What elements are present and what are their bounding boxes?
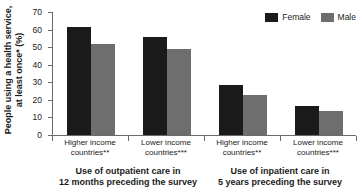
category-label-1: Higher incomecountries** — [52, 138, 128, 157]
bar-female-3 — [219, 85, 243, 135]
y-axis-tick: 60 — [48, 30, 52, 31]
category-label-4: Lower incomecountries*** — [280, 138, 356, 157]
y-axis-title-line-2: at least once* (%) — [13, 6, 24, 135]
bar-female-4 — [295, 106, 319, 135]
category-separator — [356, 136, 357, 141]
y-axis-tick: 50 — [48, 47, 52, 48]
category-label-line-2: countries** — [204, 148, 280, 158]
category-label-line-2: countries*** — [280, 148, 356, 158]
y-axis-tick-label: 70 — [33, 7, 42, 17]
group-title-1: Use of outpatient care in12 months prece… — [52, 166, 204, 188]
y-axis-tick-label: 20 — [33, 95, 42, 105]
group-title-line-2: 12 months preceding the survey — [52, 177, 204, 188]
y-axis-tick-label: 30 — [33, 77, 42, 87]
clipped-title-strip — [0, 0, 362, 4]
bar-male-2 — [167, 49, 191, 135]
y-axis-tick: 70 — [48, 12, 52, 13]
category-label-line-1: Higher income — [52, 138, 128, 148]
y-axis-tick-label: 60 — [33, 25, 42, 35]
y-axis-tick: 20 — [48, 100, 52, 101]
bar-male-4 — [319, 111, 343, 135]
group-title-line-2: 5 years preceding the survey — [204, 177, 356, 188]
y-axis-tick-label: 0 — [37, 130, 42, 140]
category-label-line-2: countries** — [52, 148, 128, 158]
y-axis-tick: 30 — [48, 82, 52, 83]
chart-figure: People using a health service, at least … — [0, 0, 362, 196]
y-axis-title-line-1: People using a health service, — [3, 6, 14, 135]
bar-female-1 — [67, 27, 91, 135]
category-label-line-2: countries*** — [128, 148, 204, 158]
bar-female-2 — [143, 37, 167, 135]
y-axis-tick: 40 — [48, 65, 52, 66]
category-label-line-1: Lower income — [280, 138, 356, 148]
bar-male-1 — [91, 44, 115, 135]
group-title-line-1: Use of outpatient care in — [52, 166, 204, 177]
category-label-2: Lower incomecountries*** — [128, 138, 204, 157]
plot-area: 010203040506070 — [52, 12, 356, 135]
category-label-line-1: Higher income — [204, 138, 280, 148]
y-axis-tick: 10 — [48, 117, 52, 118]
y-axis-title: People using a health service, at least … — [0, 0, 26, 140]
y-axis-tick-label: 40 — [33, 60, 42, 70]
bar-male-3 — [243, 95, 267, 135]
y-axis-tick-label: 50 — [33, 42, 42, 52]
group-title-2: Use of inpatient care in5 years precedin… — [204, 166, 356, 188]
y-axis-tick-label: 10 — [33, 112, 42, 122]
category-label-3: Higher incomecountries** — [204, 138, 280, 157]
bar-series-container — [53, 12, 356, 135]
group-title-line-1: Use of inpatient care in — [204, 166, 356, 177]
category-label-line-1: Lower income — [128, 138, 204, 148]
